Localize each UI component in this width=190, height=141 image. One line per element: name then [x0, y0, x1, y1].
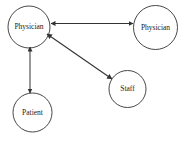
edge-physician-to-staff [47, 34, 112, 79]
node-staff[interactable] [109, 71, 146, 108]
diagram-svg [0, 0, 190, 141]
edge-group [30, 24, 133, 94]
diagram-canvas: Physician Physician Patient Staff [0, 0, 190, 141]
node-physician-right[interactable] [134, 6, 178, 50]
node-physician-left[interactable] [8, 6, 50, 48]
node-group [8, 6, 178, 133]
node-patient[interactable] [13, 93, 52, 132]
